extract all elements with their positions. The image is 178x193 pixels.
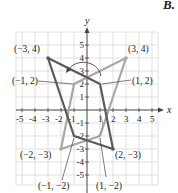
label-leaders bbox=[38, 80, 131, 180]
x-tick-labels: -5 -4 -3 -2 -1 1 2 3 4 5 bbox=[16, 114, 155, 124]
svg-text:3: 3 bbox=[124, 114, 129, 124]
y-axis-label: y bbox=[84, 15, 90, 26]
svg-text:5: 5 bbox=[80, 40, 85, 50]
y-axis-arrow-icon bbox=[85, 27, 90, 33]
x-axis-label: x bbox=[166, 104, 172, 115]
label-neg1-2: (−1, 2) bbox=[12, 76, 38, 87]
svg-text:1: 1 bbox=[80, 92, 85, 102]
reflected-shape bbox=[61, 58, 126, 149]
svg-text:4: 4 bbox=[137, 114, 142, 124]
svg-text:2: 2 bbox=[111, 114, 116, 124]
svg-text:-4: -4 bbox=[29, 114, 37, 124]
label-2-neg3: (2, −3) bbox=[115, 150, 141, 161]
svg-text:-3: -3 bbox=[42, 114, 50, 124]
svg-text:-5: -5 bbox=[77, 170, 85, 180]
graph-svg: x y -5 -4 -3 -2 -1 1 2 3 4 5 bbox=[0, 0, 178, 193]
svg-text:-5: -5 bbox=[16, 114, 24, 124]
svg-text:5: 5 bbox=[150, 114, 155, 124]
svg-text:4: 4 bbox=[80, 53, 85, 63]
label-1-2: (1, 2) bbox=[132, 76, 153, 87]
x-axis-arrow-icon bbox=[158, 108, 164, 113]
label-neg2-neg3: (−2, −3) bbox=[20, 150, 51, 161]
label-neg3-4: (−3, 4) bbox=[14, 44, 40, 55]
figure-option-label: B. bbox=[163, 0, 175, 13]
label-3-4: (3, 4) bbox=[128, 44, 149, 55]
svg-text:-1: -1 bbox=[77, 118, 85, 128]
label-1-neg2: (1, −2) bbox=[96, 181, 122, 192]
coordinate-plane-figure: B. bbox=[0, 0, 178, 193]
label-neg1-neg2: (−1, −2) bbox=[38, 181, 69, 192]
svg-text:-2: -2 bbox=[55, 114, 63, 124]
svg-text:-4: -4 bbox=[77, 157, 85, 167]
svg-text:-3: -3 bbox=[77, 144, 85, 154]
axes bbox=[16, 30, 160, 193]
